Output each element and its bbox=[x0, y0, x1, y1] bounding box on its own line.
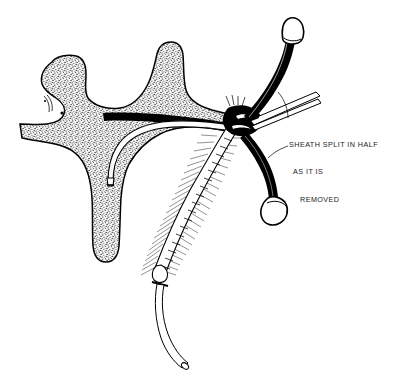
tissue-dot bbox=[60, 111, 63, 114]
catheter-tip-in-branch bbox=[107, 178, 114, 186]
sheath-hub-lower bbox=[261, 197, 288, 225]
catheter-distal-tail bbox=[155, 284, 189, 371]
illustration-canvas: SHEATH SPLIT IN HALF AS IT IS REMOVED bbox=[0, 0, 394, 376]
callout-line-2: AS IT IS bbox=[289, 167, 378, 176]
sheath-half-lower bbox=[240, 132, 278, 199]
callout-line-3: REMOVED bbox=[289, 195, 378, 204]
leader-to-lower-sheath-half bbox=[268, 146, 288, 158]
tissue-nick-detail bbox=[44, 95, 52, 112]
sheath-split-callout: SHEATH SPLIT IN HALF AS IT IS REMOVED bbox=[289, 121, 378, 223]
tissue-dot bbox=[44, 100, 46, 102]
sheath-hub-upper bbox=[282, 18, 304, 44]
callout-line-1: SHEATH SPLIT IN HALF bbox=[289, 140, 378, 149]
